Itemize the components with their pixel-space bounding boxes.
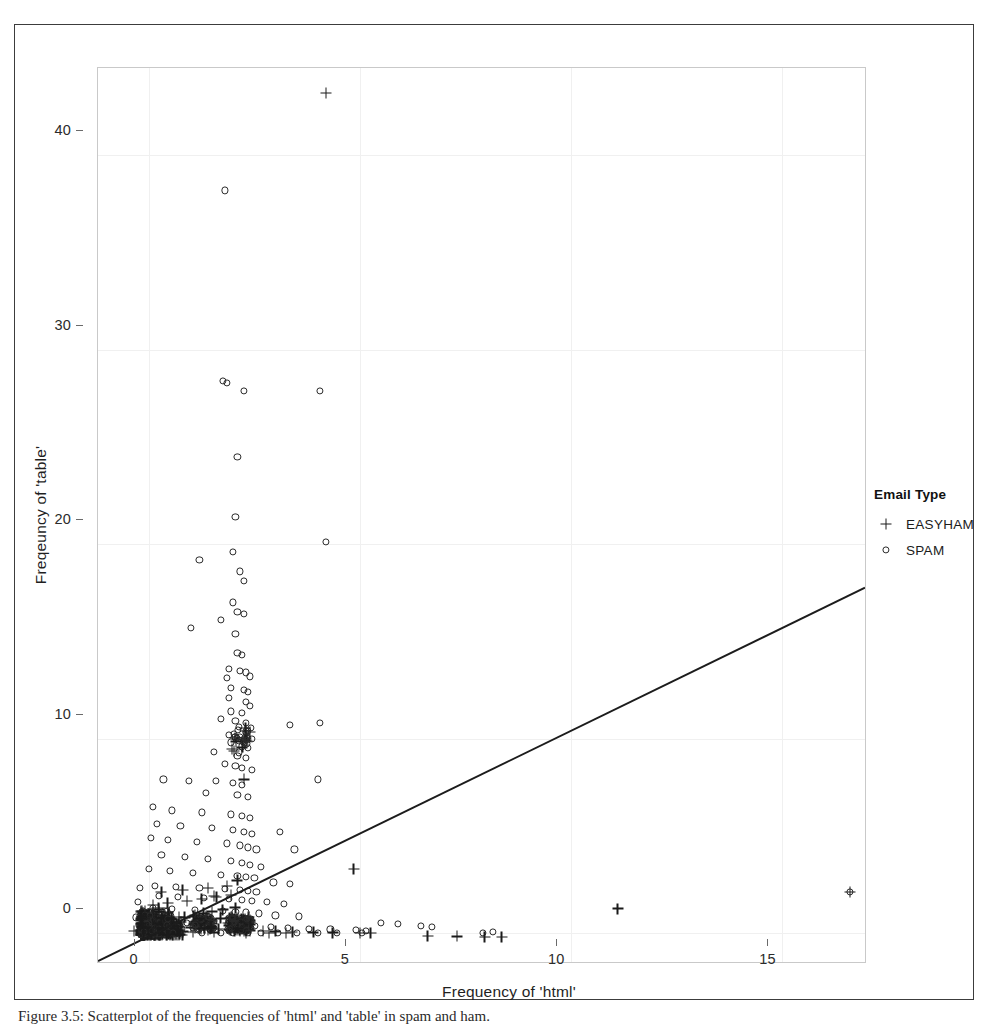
y-tick-mark	[76, 325, 83, 326]
circle-open-icon	[874, 538, 898, 562]
legend-item-label: EASYHAM	[906, 517, 974, 532]
y-tick-label: 0	[41, 900, 71, 916]
y-tick-mark	[76, 714, 83, 715]
figure-caption: Figure 3.5: Scatterplot of the frequenci…	[18, 1008, 958, 1025]
y-tick-label: 10	[41, 706, 71, 722]
legend-item-spam[interactable]: SPAM	[874, 537, 984, 563]
y-tick-label: 30	[41, 317, 71, 333]
x-tick-label: 0	[130, 951, 138, 967]
y-tick-mark	[76, 130, 83, 131]
plus-icon	[874, 512, 898, 536]
legend-title: Email Type	[874, 487, 984, 502]
figure-frame: Frequency of 'html' Freqeuncy of 'table'…	[14, 24, 974, 1000]
x-axis-title: Frequency of 'html'	[15, 983, 988, 1001]
y-tick-mark	[76, 908, 83, 909]
y-tick-label: 20	[41, 511, 71, 527]
legend: Email Type EASYHAMSPAM	[874, 487, 984, 563]
x-tick-mark	[767, 939, 768, 946]
x-tick-mark	[556, 939, 557, 946]
x-tick-label: 10	[548, 951, 565, 967]
x-tick-label: 5	[341, 951, 349, 967]
y-tick-label: 40	[41, 122, 71, 138]
legend-items: EASYHAMSPAM	[874, 511, 984, 563]
plot-panel	[97, 67, 866, 963]
x-tick-mark	[345, 939, 346, 946]
x-tick-mark	[134, 939, 135, 946]
regression-line	[98, 68, 865, 962]
legend-item-label: SPAM	[906, 543, 944, 558]
y-tick-mark	[76, 519, 83, 520]
legend-item-easyham[interactable]: EASYHAM	[874, 511, 984, 537]
x-tick-label: 15	[759, 951, 776, 967]
